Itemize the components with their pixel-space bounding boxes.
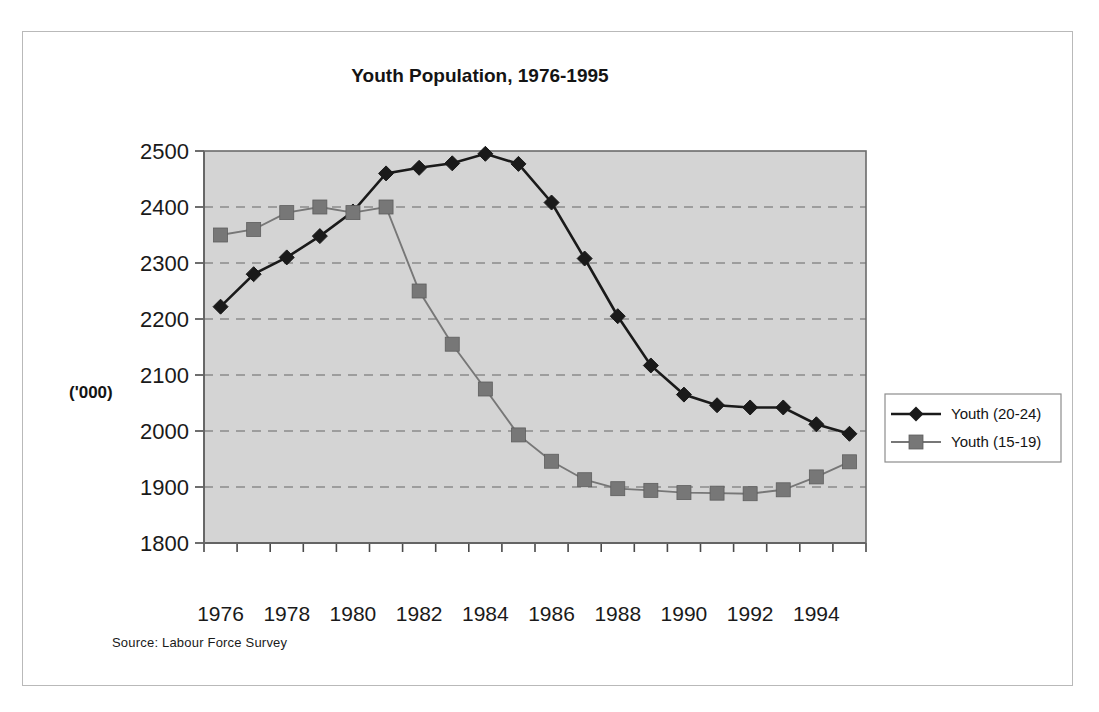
- x-axis-tick-label: 1986: [528, 602, 575, 625]
- square-marker-icon: [545, 454, 559, 468]
- x-axis-ticks-group: [204, 543, 866, 552]
- source-note: Source: Labour Force Survey: [112, 635, 288, 650]
- square-marker-icon: [644, 483, 658, 497]
- x-axis-tick-label: 1978: [263, 602, 310, 625]
- square-marker-icon: [842, 455, 856, 469]
- square-marker-icon: [379, 200, 393, 214]
- x-axis-tick-label: 1984: [462, 602, 509, 625]
- chart-title: Youth Population, 1976-1995: [351, 65, 609, 86]
- square-marker-icon: [280, 206, 294, 220]
- x-axis-tick-label: 1980: [330, 602, 377, 625]
- y-axis-tick-label: 1800: [140, 531, 189, 556]
- square-marker-icon: [247, 222, 261, 236]
- x-axis-tick-label: 1988: [594, 602, 641, 625]
- chart-legend[interactable]: Youth (20-24)Youth (15-19): [885, 394, 1061, 462]
- legend-item-15-19[interactable]: Youth (15-19): [891, 433, 1041, 450]
- square-marker-icon: [809, 470, 823, 484]
- x-axis-tick-labels-group: 1976197819801982198419861988199019921994: [197, 602, 840, 625]
- y-axis-tick-label: 2000: [140, 419, 189, 444]
- square-marker-icon: [909, 435, 923, 449]
- square-marker-icon: [511, 428, 525, 442]
- x-axis-tick-label: 1992: [727, 602, 774, 625]
- square-marker-icon: [578, 473, 592, 487]
- legend-label: Youth (20-24): [951, 405, 1041, 422]
- x-axis-tick-label: 1994: [793, 602, 840, 625]
- y-axis-tick-label: 1900: [140, 475, 189, 500]
- square-marker-icon: [611, 482, 625, 496]
- y-axis-tick-label: 2500: [140, 139, 189, 164]
- square-marker-icon: [743, 487, 757, 501]
- x-axis-tick-label: 1990: [661, 602, 708, 625]
- figure-frame: Youth Population, 1976-1995 180019002000…: [22, 31, 1073, 686]
- y-axis-tick-label: 2300: [140, 251, 189, 276]
- legend-label: Youth (15-19): [951, 433, 1041, 450]
- y-axis-tick-label: 2400: [140, 195, 189, 220]
- square-marker-icon: [776, 483, 790, 497]
- x-axis-tick-label: 1982: [396, 602, 443, 625]
- square-marker-icon: [313, 200, 327, 214]
- y-axis-tick-label: 2200: [140, 307, 189, 332]
- square-marker-icon: [412, 284, 426, 298]
- x-axis-tick-label: 1976: [197, 602, 244, 625]
- square-marker-icon: [214, 228, 228, 242]
- y-axis-unit-label: ('000): [69, 383, 113, 402]
- square-marker-icon: [677, 486, 691, 500]
- y-axis-tick-label: 2100: [140, 363, 189, 388]
- square-marker-icon: [346, 206, 360, 220]
- square-marker-icon: [478, 382, 492, 396]
- square-marker-icon: [445, 337, 459, 351]
- y-axis-ticks-group: 18001900200021002200230024002500: [140, 139, 204, 556]
- youth-population-chart: Youth Population, 1976-1995 180019002000…: [23, 32, 1072, 685]
- square-marker-icon: [710, 486, 724, 500]
